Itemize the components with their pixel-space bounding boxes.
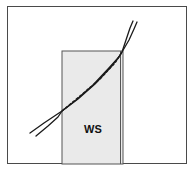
ws-shaded-band: [62, 51, 123, 164]
figure-root: WS: [0, 0, 196, 176]
diagram-canvas: [0, 0, 196, 176]
ws-region-label: WS: [63, 123, 123, 135]
